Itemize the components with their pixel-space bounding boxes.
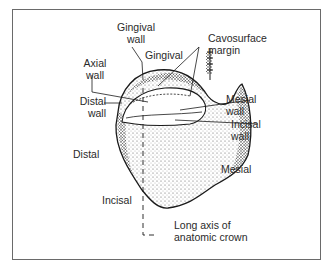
label-line: Cavosurface bbox=[208, 32, 267, 44]
label-line: Distal bbox=[72, 95, 106, 107]
label-line: margin bbox=[208, 44, 267, 56]
label-distal: Distal bbox=[73, 148, 99, 160]
label-line: Incisal bbox=[231, 118, 261, 130]
label-line: anatomic crown bbox=[174, 231, 248, 243]
label-line: Long axis of bbox=[174, 219, 248, 231]
label-mesial-wall: Mesial wall bbox=[226, 93, 256, 117]
label-distal-wall: Distal wall bbox=[72, 95, 106, 119]
label-incisal-wall: Incisal wall bbox=[231, 118, 261, 142]
tooth-illustration bbox=[0, 0, 334, 270]
label-line: wall bbox=[226, 105, 256, 117]
label-line: Gingival bbox=[107, 21, 165, 33]
label-line: wall bbox=[231, 130, 261, 142]
label-incisal: Incisal bbox=[102, 194, 132, 206]
label-gingival-wall: Gingival wall bbox=[107, 21, 165, 45]
label-axial-wall: Axial wall bbox=[78, 57, 112, 81]
label-long-axis: Long axis of anatomic crown bbox=[174, 219, 248, 243]
label-line: wall bbox=[78, 69, 112, 81]
label-gingival: Gingival bbox=[145, 49, 183, 61]
label-line: wall bbox=[72, 107, 106, 119]
label-mesial: Mesial bbox=[221, 163, 251, 175]
label-line: wall bbox=[107, 33, 165, 45]
label-line: Axial bbox=[78, 57, 112, 69]
label-line: Mesial bbox=[226, 93, 256, 105]
label-cavosurface-margin: Cavosurface margin bbox=[208, 32, 267, 56]
